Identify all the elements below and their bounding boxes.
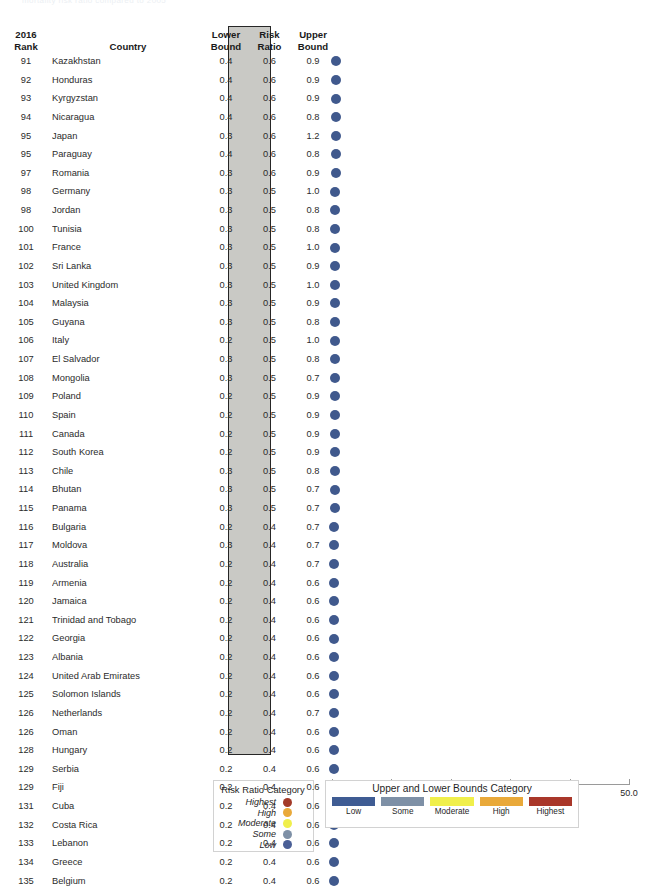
cell-lower: 0.2: [204, 778, 248, 797]
cell-upper: 0.6: [291, 778, 335, 797]
table-row: 94Nicaragua0.40.60.8: [0, 108, 335, 127]
cell-risk: 0.5: [248, 425, 291, 444]
cell-lower: 0.2: [204, 667, 248, 686]
cell-rank: 94: [0, 108, 52, 127]
cell-lower: 0.2: [204, 853, 248, 872]
table-row: 126Netherlands0.20.40.7: [0, 704, 335, 723]
cell-lower: 0.2: [204, 331, 248, 350]
cell-upper: 0.9: [291, 387, 335, 406]
cell-rank: 129: [0, 778, 52, 797]
cell-country: El Salvador: [52, 350, 204, 369]
table-row: 124United Arab Emirates0.20.40.6: [0, 667, 335, 686]
table-row: 92Honduras0.40.60.9: [0, 71, 335, 90]
table-row: 98Jordan0.30.50.8: [0, 201, 335, 220]
table-row: 91Kazakhstan0.40.60.9: [0, 52, 335, 71]
cell-lower: 0.3: [204, 127, 248, 146]
cell-rank: 115: [0, 499, 52, 518]
cell-lower: 0.3: [204, 220, 248, 239]
legend-bounds-item-label: High: [480, 807, 523, 816]
table-row: 126Oman0.20.40.6: [0, 723, 335, 742]
table-row: 115Panama0.30.50.7: [0, 499, 335, 518]
table-row: 112South Korea0.20.50.9: [0, 443, 335, 462]
table-row: 107El Salvador0.30.50.8: [0, 350, 335, 369]
cell-country: Nicaragua: [52, 108, 204, 127]
cell-risk: 0.4: [248, 574, 291, 593]
cell-risk: 0.5: [248, 276, 291, 295]
column-header-rank-line1: 2016: [0, 29, 52, 41]
cell-risk: 0.4: [248, 872, 291, 889]
column-header-upper-bound: Upper Bound: [291, 26, 335, 52]
cell-country: United Kingdom: [52, 276, 204, 295]
cell-country: Canada: [52, 425, 204, 444]
cell-rank: 98: [0, 182, 52, 201]
table-row: 125Solomon Islands0.20.40.6: [0, 685, 335, 704]
table-row: 135Belgium0.20.40.6: [0, 872, 335, 889]
cell-rank: 117: [0, 536, 52, 555]
cell-country: Jordan: [52, 201, 204, 220]
cell-risk: 0.6: [248, 108, 291, 127]
legend-bounds-item-label: Highest: [529, 807, 572, 816]
cell-rank: 124: [0, 667, 52, 686]
column-header-lower-line2: Bound: [204, 41, 248, 53]
column-header-risk-line1: Risk: [248, 29, 291, 41]
cell-lower: 0.4: [204, 71, 248, 90]
table-body: 91Kazakhstan0.40.60.992Honduras0.40.60.9…: [0, 52, 335, 889]
table-row: 131Cuba0.20.40.6: [0, 797, 335, 816]
cell-upper: 0.8: [291, 108, 335, 127]
cell-rank: 129: [0, 760, 52, 779]
cell-upper: 0.7: [291, 555, 335, 574]
legend-bounds-item: Some: [381, 797, 424, 816]
legend-bounds-color-bar: [332, 797, 375, 806]
cell-rank: 98: [0, 201, 52, 220]
cell-upper: 1.0: [291, 238, 335, 257]
column-header-risk-ratio: Risk Ratio: [248, 26, 291, 52]
table-row: 93Kyrgyzstan0.40.60.9: [0, 89, 335, 108]
cell-lower: 0.3: [204, 294, 248, 313]
cell-country: Serbia: [52, 760, 204, 779]
cell-lower: 0.2: [204, 797, 248, 816]
cell-risk: 0.5: [248, 443, 291, 462]
table-header-row: 2016 Rank Country Lower Bound Risk Ratio…: [0, 26, 335, 52]
table-row: 95Paraguay0.40.60.8: [0, 145, 335, 164]
cell-risk: 0.4: [248, 611, 291, 630]
cell-country: Bulgaria: [52, 518, 204, 537]
legend-bounds-item: High: [480, 797, 523, 816]
cell-lower: 0.2: [204, 555, 248, 574]
cell-upper: 0.9: [291, 425, 335, 444]
cell-upper: 0.6: [291, 592, 335, 611]
cell-lower: 0.2: [204, 592, 248, 611]
legend-bounds-item-label: Some: [381, 807, 424, 816]
cell-risk: 0.4: [248, 629, 291, 648]
cell-country: Greece: [52, 853, 204, 872]
cell-lower: 0.2: [204, 648, 248, 667]
cell-upper: 0.8: [291, 462, 335, 481]
cell-country: Fiji: [52, 778, 204, 797]
cell-rank: 131: [0, 797, 52, 816]
cell-rank: 116: [0, 518, 52, 537]
cell-risk: 0.5: [248, 201, 291, 220]
cell-country: Panama: [52, 499, 204, 518]
cell-upper: 0.7: [291, 704, 335, 723]
cell-lower: 0.2: [204, 685, 248, 704]
cell-rank: 112: [0, 443, 52, 462]
cell-rank: 126: [0, 723, 52, 742]
cell-lower: 0.2: [204, 723, 248, 742]
legend-bounds-item: Moderate: [430, 797, 473, 816]
cell-country: Oman: [52, 723, 204, 742]
cell-country: Netherlands: [52, 704, 204, 723]
scatter-plot: 0.010.020.030.040.050.0: [320, 26, 659, 786]
table-row: 101France0.30.51.0: [0, 238, 335, 257]
cell-country: Australia: [52, 555, 204, 574]
cell-lower: 0.2: [204, 387, 248, 406]
cell-risk: 0.6: [248, 52, 291, 71]
cell-rank: 113: [0, 462, 52, 481]
cell-rank: 107: [0, 350, 52, 369]
cell-rank: 109: [0, 387, 52, 406]
cell-lower: 0.3: [204, 480, 248, 499]
cell-lower: 0.2: [204, 872, 248, 889]
cell-upper: 0.6: [291, 611, 335, 630]
cell-country: Moldova: [52, 536, 204, 555]
cell-rank: 121: [0, 611, 52, 630]
cell-lower: 0.3: [204, 369, 248, 388]
table-row: 121Trinidad and Tobago0.20.40.6: [0, 611, 335, 630]
